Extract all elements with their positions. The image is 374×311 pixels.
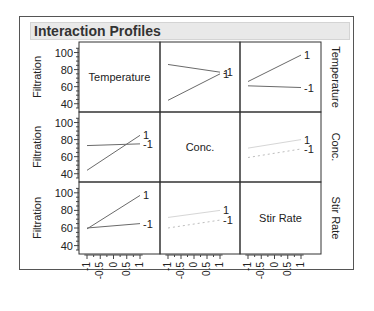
series-level-label: 1 — [143, 189, 149, 201]
y-tick-label: 100 — [55, 47, 73, 59]
x-tick-label: -0.5 — [94, 262, 105, 280]
y-tick-label: 80 — [61, 204, 73, 216]
x-tick-label: 0.5 — [121, 262, 132, 276]
series-level-label: 1 — [143, 129, 149, 141]
y-axis-title: Filtration — [31, 126, 43, 168]
series-level-label: -1 — [304, 143, 314, 155]
x-tick-label: 0.5 — [282, 262, 293, 276]
row-factor-label: Conc. — [330, 133, 342, 162]
series-level-label: -1 — [223, 214, 233, 226]
y-axis-title: Filtration — [31, 197, 43, 239]
y-tick-label: 60 — [61, 222, 73, 234]
x-tick-label: -1 — [162, 262, 173, 271]
interaction-line — [248, 55, 301, 81]
series-level-label: -1 — [304, 82, 314, 94]
row-factor-label: Stir Rate — [330, 197, 342, 240]
x-tick-label: -0.5 — [255, 262, 266, 280]
y-tick-label: 40 — [61, 240, 73, 252]
x-tick-label: 0 — [269, 262, 280, 268]
x-tick-label: 0 — [188, 262, 199, 268]
interaction-line — [168, 220, 220, 228]
interaction-line — [248, 149, 301, 158]
x-tick-label: 1 — [134, 262, 145, 268]
y-tick-label: 40 — [61, 98, 73, 110]
series-level-label: 1 — [304, 49, 310, 61]
diagonal-factor-label: Stir Rate — [259, 212, 302, 224]
x-tick-label: 0.5 — [201, 262, 212, 276]
y-tick-label: 100 — [55, 187, 73, 199]
interaction-line — [248, 140, 301, 149]
row-factor-label: Temperature — [330, 46, 342, 108]
diagonal-factor-label: Conc. — [186, 141, 215, 153]
diagonal-factor-label: Temperature — [89, 71, 151, 83]
y-tick-label: 80 — [61, 134, 73, 146]
interaction-line — [87, 144, 140, 146]
y-axis-title: Filtration — [31, 56, 43, 98]
interaction-line — [168, 74, 220, 100]
y-tick-label: 80 — [61, 64, 73, 76]
series-level-label: 1 — [223, 68, 229, 80]
x-tick-label: -1 — [242, 262, 253, 271]
y-tick-label: 40 — [61, 168, 73, 180]
x-tick-label: 0 — [108, 262, 119, 268]
interaction-line — [168, 64, 220, 72]
interaction-line — [87, 135, 140, 170]
y-tick-label: 60 — [61, 151, 73, 163]
x-tick-label: 1 — [295, 262, 306, 268]
x-tick-label: -1 — [81, 262, 92, 271]
x-tick-label: 1 — [214, 262, 225, 268]
interaction-line — [248, 86, 301, 88]
series-level-label: -1 — [143, 218, 153, 230]
x-tick-label: -0.5 — [175, 262, 186, 280]
y-tick-label: 100 — [55, 117, 73, 129]
interaction-profiles-chart: 100806040FiltrationTemperature100806040F… — [0, 0, 374, 311]
interaction-line — [168, 210, 220, 217]
y-tick-label: 60 — [61, 81, 73, 93]
